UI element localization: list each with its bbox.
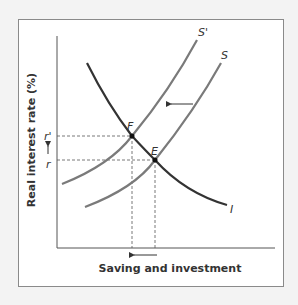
curve-s	[85, 63, 221, 207]
point-e	[153, 158, 158, 163]
tick-r: r	[46, 158, 52, 171]
curve-i	[87, 63, 227, 205]
y-axis-title: Real interest rate (%)	[25, 73, 38, 207]
label-s: S	[221, 49, 228, 62]
tick-r-prime: r'	[44, 130, 52, 143]
point-f	[130, 134, 135, 139]
guide-lines	[57, 136, 155, 248]
label-f: F	[127, 120, 134, 133]
saving-investment-diagram: S' S I F E r' r Saving and investment Re…	[0, 0, 298, 305]
x-axis-title: Saving and investment	[99, 262, 242, 275]
label-e: E	[151, 145, 158, 158]
curve-s-prime	[62, 40, 197, 184]
label-s-prime: S'	[198, 26, 208, 39]
label-i: I	[230, 203, 233, 216]
